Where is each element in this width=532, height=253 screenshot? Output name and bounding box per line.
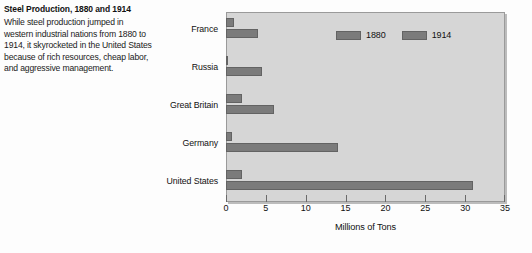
legend-label-1914: 1914 bbox=[432, 30, 452, 40]
bar-1880-france bbox=[226, 18, 234, 27]
x-tick-label: 15 bbox=[341, 203, 351, 213]
bar-1914-france bbox=[226, 29, 258, 38]
x-tick bbox=[306, 195, 307, 202]
y-axis-labels: FranceRussiaGreat BritainGermanyUnited S… bbox=[150, 12, 222, 202]
legend-swatch-1914 bbox=[402, 31, 427, 40]
bar-1880-great-britain bbox=[226, 94, 242, 103]
x-tick bbox=[266, 195, 267, 202]
y-axis-label-germany: Germany bbox=[183, 138, 218, 148]
bar-chart: FranceRussiaGreat BritainGermanyUnited S… bbox=[0, 0, 532, 253]
y-axis-label-great-britain: Great Britain bbox=[170, 100, 218, 110]
bars-layer bbox=[226, 12, 505, 202]
y-axis-label-france: France bbox=[191, 24, 218, 34]
x-tick-label: 20 bbox=[380, 203, 390, 213]
x-tick bbox=[226, 195, 227, 202]
x-tick-label: 0 bbox=[223, 203, 228, 213]
bar-1914-germany bbox=[226, 143, 338, 152]
bar-1914-united-states bbox=[226, 181, 473, 190]
x-tick-label: 5 bbox=[263, 203, 268, 213]
x-tick bbox=[465, 195, 466, 202]
legend-item-1880: 1880 bbox=[336, 30, 386, 40]
x-tick-label: 30 bbox=[460, 203, 470, 213]
bar-1914-great-britain bbox=[226, 105, 274, 114]
x-tick-label: 25 bbox=[420, 203, 430, 213]
x-axis-title: Millions of Tons bbox=[226, 222, 505, 232]
bar-1880-germany bbox=[226, 132, 232, 141]
legend: 18801914 bbox=[336, 30, 451, 40]
bar-1880-russia bbox=[226, 56, 228, 65]
legend-label-1880: 1880 bbox=[366, 30, 386, 40]
x-tick bbox=[425, 195, 426, 202]
x-tick bbox=[504, 195, 505, 202]
bar-1914-russia bbox=[226, 67, 262, 76]
x-tick-label: 10 bbox=[301, 203, 311, 213]
legend-swatch-1880 bbox=[336, 31, 361, 40]
legend-item-1914: 1914 bbox=[402, 30, 452, 40]
figure: Steel Production, 1880 and 1914 While st… bbox=[0, 0, 532, 253]
y-axis-label-russia: Russia bbox=[192, 62, 218, 72]
bar-1880-united-states bbox=[226, 170, 242, 179]
x-tick-label: 35 bbox=[500, 203, 510, 213]
x-tick bbox=[346, 195, 347, 202]
y-axis-label-united-states: United States bbox=[166, 176, 218, 186]
x-tick bbox=[385, 195, 386, 202]
x-axis-tick-labels: 05101520253035 bbox=[226, 203, 505, 217]
